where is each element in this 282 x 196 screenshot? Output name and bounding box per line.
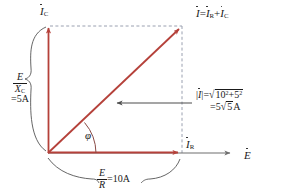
vector-i-total <box>48 29 179 153</box>
label-exc-brace: E XC =5A <box>11 72 29 105</box>
sum-term2-sub: C <box>224 12 229 19</box>
magnitude-line2: =5√5A <box>196 101 243 113</box>
exc-value: =5A <box>11 94 29 105</box>
label-ir: IR <box>186 139 194 151</box>
mag-result-unit: A <box>233 101 240 112</box>
sum-lhs: I <box>196 8 200 20</box>
mag-radicand: 102+52 <box>215 89 244 101</box>
mag-radical-sign: √ <box>209 89 215 101</box>
label-e-axis: E <box>244 150 251 162</box>
er-denominator: R <box>97 179 107 191</box>
label-ir-symbol: I <box>186 139 190 151</box>
brace-r-left <box>48 158 99 183</box>
er-value: =10A <box>107 174 130 185</box>
label-ir-subscript: R <box>190 143 195 150</box>
label-e-symbol: E <box>244 150 251 162</box>
exc-numerator: E <box>13 72 27 83</box>
er-numerator: E <box>97 168 107 179</box>
mag-a: 10 <box>216 89 226 100</box>
label-magnitude: |I|=√102+52 =5√5A <box>196 89 243 112</box>
label-ic-subscript: C <box>44 10 49 17</box>
label-sum-equation: I=IR+IC <box>196 8 229 20</box>
exc-fraction: E XC <box>13 72 27 94</box>
sum-term2: I <box>220 8 224 20</box>
label-phi: φ <box>85 130 91 142</box>
sum-term1: I <box>206 8 210 20</box>
mag-result-eq: =5 <box>210 101 221 112</box>
label-ic-symbol: I <box>40 6 44 18</box>
brace-r-right <box>141 159 180 183</box>
label-er-brace: E R =10A <box>97 168 130 190</box>
er-fraction: E R <box>97 168 107 190</box>
magnitude-line1: |I|=√102+52 <box>196 89 243 101</box>
phasor-diagram: IC I=IR+IC IR E φ E XC =5A E R =10A |I|=… <box>0 0 282 196</box>
mag-b-exp: 2 <box>239 90 242 96</box>
label-ic: IC <box>40 6 48 18</box>
mag-result-radical-sign: √ <box>221 101 227 113</box>
mag-symbol: I <box>198 90 201 101</box>
